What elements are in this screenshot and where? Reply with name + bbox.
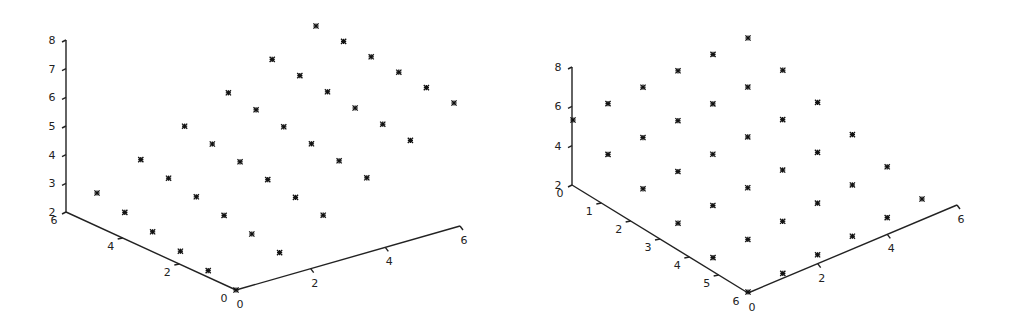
z-tick-label: 4: [49, 149, 56, 162]
right-3d-scatter: 246801234560246: [555, 35, 965, 314]
data-point-asterisk-icon: [94, 190, 99, 195]
data-point-asterisk-icon: [745, 185, 750, 190]
y-tick-label: 4: [674, 259, 681, 272]
y-tick: [655, 239, 660, 240]
data-point-asterisk-icon: [710, 101, 715, 106]
y-axis-line: [66, 212, 236, 290]
data-point-asterisk-icon: [182, 124, 187, 129]
y-tick: [684, 257, 689, 258]
data-point-asterisk-icon: [815, 150, 820, 155]
data-point-asterisk-icon: [640, 186, 645, 191]
data-point-asterisk-icon: [277, 250, 282, 255]
data-point-asterisk-icon: [424, 85, 429, 90]
y-tick-label: 2: [164, 266, 171, 279]
y-tick: [626, 221, 631, 222]
data-point-asterisk-icon: [353, 105, 358, 110]
data-point-asterisk-icon: [369, 54, 374, 59]
x-tick: [385, 247, 388, 251]
data-point-asterisk-icon: [237, 159, 242, 164]
chart-canvas: 234567864200246 246801234560246: [0, 0, 1023, 335]
data-point-asterisk-icon: [745, 237, 750, 242]
data-point-asterisk-icon: [745, 134, 750, 139]
data-point-asterisk-icon: [297, 73, 302, 78]
y-tick-label: 4: [107, 240, 114, 253]
data-point-asterisk-icon: [451, 100, 456, 105]
data-point-asterisk-icon: [221, 213, 226, 218]
data-point-asterisk-icon: [675, 169, 680, 174]
data-point-asterisk-icon: [270, 57, 275, 62]
y-tick-label: 3: [645, 241, 652, 254]
x-tick-label: 4: [386, 255, 393, 268]
data-point-asterisk-icon: [281, 124, 286, 129]
y-tick-label: 5: [703, 277, 710, 290]
x-tick: [887, 234, 890, 238]
data-point-asterisk-icon: [210, 141, 215, 146]
data-point-asterisk-icon: [605, 101, 610, 106]
data-point-asterisk-icon: [745, 289, 750, 294]
data-point-asterisk-icon: [850, 234, 855, 239]
x-axis-line: [236, 226, 460, 290]
data-point-asterisk-icon: [178, 249, 183, 254]
y-tick: [714, 275, 719, 276]
z-tick-label: 3: [49, 177, 56, 190]
data-point-asterisk-icon: [745, 35, 750, 40]
data-point-asterisk-icon: [325, 89, 330, 94]
data-point-asterisk-icon: [885, 215, 890, 220]
data-point-asterisk-icon: [605, 152, 610, 157]
data-point-asterisk-icon: [150, 229, 155, 234]
z-tick-label: 6: [555, 100, 562, 113]
y-tick: [118, 238, 123, 239]
x-tick-label: 6: [461, 234, 468, 247]
data-point-asterisk-icon: [293, 195, 298, 200]
data-point-asterisk-icon: [815, 201, 820, 206]
data-point-asterisk-icon: [341, 39, 346, 44]
data-point-asterisk-icon: [640, 85, 645, 90]
x-tick: [311, 269, 314, 273]
data-point-asterisk-icon: [249, 231, 254, 236]
data-point-asterisk-icon: [780, 271, 785, 276]
data-point-asterisk-icon: [850, 182, 855, 187]
z-tick-label: 6: [49, 91, 56, 104]
data-point-asterisk-icon: [780, 117, 785, 122]
data-point-asterisk-icon: [919, 196, 924, 201]
data-point-asterisk-icon: [321, 213, 326, 218]
data-point-asterisk-icon: [815, 100, 820, 105]
data-point-asterisk-icon: [166, 176, 171, 181]
x-tick-label: 6: [958, 213, 965, 226]
z-tick-label: 5: [49, 120, 56, 133]
y-tick: [596, 203, 601, 204]
z-tick-label: 8: [555, 61, 562, 74]
x-tick: [460, 226, 463, 230]
x-axis-line: [748, 205, 957, 293]
z-tick-label: 8: [49, 34, 56, 47]
x-tick-label: 0: [749, 301, 756, 314]
data-point-asterisk-icon: [815, 252, 820, 257]
z-tick-label: 4: [555, 140, 562, 153]
y-tick-label: 0: [557, 187, 564, 200]
data-point-asterisk-icon: [570, 117, 575, 122]
data-point-asterisk-icon: [233, 287, 238, 292]
data-point-asterisk-icon: [710, 52, 715, 57]
y-tick-label: 6: [733, 295, 740, 308]
x-tick-label: 0: [237, 298, 244, 311]
x-tick: [818, 264, 821, 268]
data-point-asterisk-icon: [194, 194, 199, 199]
x-tick-label: 2: [818, 272, 825, 285]
data-point-asterisk-icon: [780, 167, 785, 172]
data-point-asterisk-icon: [313, 23, 318, 28]
data-point-asterisk-icon: [780, 219, 785, 224]
data-point-asterisk-icon: [380, 122, 385, 127]
x-tick-label: 4: [888, 242, 895, 255]
data-point-asterisk-icon: [675, 68, 680, 73]
y-tick-label: 1: [586, 205, 593, 218]
left-3d-scatter: 234567864200246: [49, 23, 468, 311]
data-point-asterisk-icon: [640, 135, 645, 140]
data-point-asterisk-icon: [780, 68, 785, 73]
data-point-asterisk-icon: [710, 152, 715, 157]
data-point-asterisk-icon: [253, 107, 258, 112]
z-tick-label: 7: [49, 63, 56, 76]
x-tick: [957, 205, 960, 209]
data-point-asterisk-icon: [309, 141, 314, 146]
data-point-asterisk-icon: [396, 70, 401, 75]
z-tick: [62, 212, 66, 214]
